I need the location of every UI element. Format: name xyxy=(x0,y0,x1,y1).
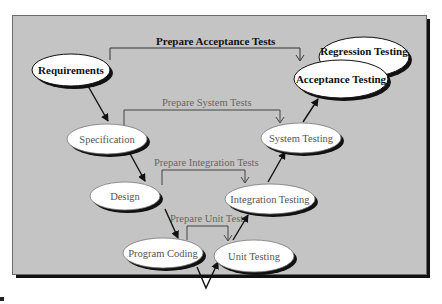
node-program-coding[interactable]: Program Coding xyxy=(123,238,206,271)
specification-label: Specification xyxy=(79,134,135,145)
node-design[interactable]: Design xyxy=(90,182,163,213)
node-unit-testing[interactable]: Unit Testing xyxy=(214,240,297,275)
connector-prepare-integration-tests: Prepare Integration Tests xyxy=(154,157,259,185)
requirements-label: Requirements xyxy=(38,64,105,76)
acceptance-testing-label: Acceptance Testing xyxy=(296,73,387,85)
program-coding-label: Program Coding xyxy=(128,248,198,259)
label-prepare-system-tests: Prepare System Tests xyxy=(162,97,251,108)
label-prepare-unit-tests: Prepare Unit Tests xyxy=(170,213,247,224)
connector-prepare-acceptance-tests: Prepare Acceptance Tests xyxy=(110,35,304,61)
node-acceptance-testing[interactable]: Acceptance Testing xyxy=(294,60,391,101)
arrow-system-testing-to-acceptance-testing xyxy=(303,99,318,122)
corner-mark xyxy=(0,297,4,301)
node-specification[interactable]: Specification xyxy=(67,124,150,157)
arrow-program-coding-to-unit-testing xyxy=(197,262,218,288)
integration-testing-label: Integration Testing xyxy=(230,194,310,205)
v-model-diagram: Prepare Acceptance Tests Prepare System … xyxy=(0,0,442,304)
arrow-requirements-to-specification xyxy=(88,86,108,121)
connector-prepare-system-tests: Prepare System Tests xyxy=(124,97,284,128)
label-prepare-integration-tests: Prepare Integration Tests xyxy=(154,157,259,168)
regression-testing-label: Regression Testing xyxy=(320,45,408,57)
node-requirements[interactable]: Requirements xyxy=(32,54,113,89)
arrow-integration-testing-to-system-testing xyxy=(268,152,285,182)
label-prepare-acceptance-tests: Prepare Acceptance Tests xyxy=(156,35,276,47)
system-testing-label: System Testing xyxy=(269,133,334,144)
unit-testing-label: Unit Testing xyxy=(228,251,281,262)
design-label: Design xyxy=(110,191,140,202)
node-system-testing[interactable]: System Testing xyxy=(261,123,344,156)
